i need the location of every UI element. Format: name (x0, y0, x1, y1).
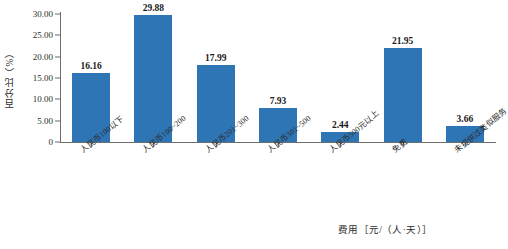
bar-value-label: 21.95 (392, 36, 413, 46)
y-axis-tick-labels: 30.0025.0020.0015.0010.005.000 (17, 0, 55, 249)
y-axis-tick-mark (55, 142, 60, 143)
x-axis-title: 费用［元/（人·天）］ (338, 222, 432, 236)
bar-value-label: 3.66 (457, 114, 474, 124)
bar-value-label: 2.44 (332, 120, 349, 130)
y-axis-tick-mark (55, 56, 60, 57)
y-axis-tick-mark (55, 78, 60, 79)
bar[interactable] (134, 15, 172, 142)
y-axis-tick-label: 30.00 (33, 10, 53, 19)
y-axis-tick-mark (55, 14, 60, 15)
bar-slot: 21.95 (371, 14, 433, 142)
y-axis-tick-mark (55, 99, 60, 100)
bar[interactable] (384, 48, 422, 142)
y-axis-tick-label: 20.00 (33, 52, 53, 61)
y-axis-tick-label: 15.00 (33, 74, 53, 83)
y-axis-tick-label: 25.00 (33, 31, 53, 40)
bar-value-label: 17.99 (205, 53, 226, 63)
bar-value-label: 16.16 (80, 61, 101, 71)
y-axis-tick-label: 5.00 (37, 116, 53, 125)
y-axis-title: 百分比（%） (2, 14, 18, 142)
bar-value-label: 7.93 (270, 96, 287, 106)
y-axis-tick-label: 0 (49, 138, 54, 147)
plot-area: 16.1629.8817.997.932.4421.953.66 (60, 14, 496, 142)
y-axis-tick-mark (55, 120, 60, 121)
bar-value-label: 29.88 (143, 3, 164, 13)
y-axis-tick-mark (55, 35, 60, 36)
y-axis-tick-label: 10.00 (33, 95, 53, 104)
